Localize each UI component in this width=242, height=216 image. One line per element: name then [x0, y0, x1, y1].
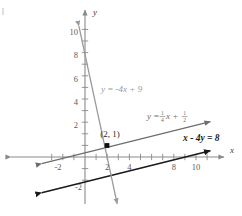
equation-shallow-mid: x + — [165, 111, 178, 121]
y-tick-label-8: 8 — [74, 50, 78, 60]
x-tick-label-4: 4 — [127, 162, 132, 172]
coordinate-plane-svg: y x -2 2 4 8 10 10 8 6 4 2 -2 y = -4x + … — [0, 0, 242, 216]
y-axis-label: y — [92, 7, 97, 17]
scan-artifact — [2, 8, 4, 15]
equation-label-shallow-line: y = 1 4 x + 1 2 — [146, 110, 188, 123]
y-tick-label-10: 10 — [70, 27, 79, 37]
y-tick-label-6: 6 — [74, 74, 78, 84]
intersection-point-label: (2, 1) — [100, 129, 120, 139]
equation-label-standard-form: x - 4y = 8 — [182, 133, 220, 143]
y-tick-label-4: 4 — [74, 97, 79, 107]
equation-shallow-denominator-2: 2 — [183, 117, 186, 123]
axes-group — [11, 10, 224, 204]
x-tick-label-neg2: -2 — [54, 162, 61, 172]
equation-label-steep-line: y = -4x + 9 — [100, 84, 143, 94]
x-tick-label-10: 10 — [192, 162, 201, 172]
x-tick-label-2: 2 — [105, 162, 109, 172]
y-tick-label-neg2: -2 — [75, 182, 82, 192]
equation-shallow-denominator-1: 4 — [161, 117, 164, 123]
x-tick-label-8: 8 — [172, 162, 176, 172]
y-tick-label-2: 2 — [74, 120, 78, 130]
equation-shallow-numerator-2: 1 — [183, 110, 186, 116]
equation-shallow-lead: y = — [146, 111, 159, 121]
equation-shallow-numerator-1: 1 — [161, 110, 164, 116]
x-axis-label: x — [229, 145, 234, 155]
intersection-point-marker — [105, 143, 110, 148]
graph-figure: y x -2 2 4 8 10 10 8 6 4 2 -2 y = -4x + … — [0, 0, 242, 216]
